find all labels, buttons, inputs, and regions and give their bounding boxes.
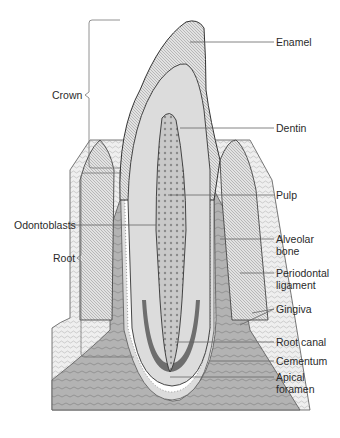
label-alveolar-line2: bone <box>276 245 314 257</box>
label-gingiva: Gingiva <box>276 303 312 315</box>
label-periodontal-ligament: Periodontal ligament <box>276 267 329 291</box>
label-alveolar-line1: Alveolar <box>276 233 314 245</box>
gingiva-left <box>80 140 114 320</box>
label-apical-line1: Apical <box>276 371 315 383</box>
label-alveolar-bone: Alveolar bone <box>276 233 314 257</box>
label-pulp: Pulp <box>276 189 297 201</box>
label-periodontal-line1: Periodontal <box>276 267 329 279</box>
label-cementum: Cementum <box>276 355 327 367</box>
label-crown: Crown <box>52 89 82 101</box>
label-root: Root <box>53 252 75 264</box>
label-apical-foramen: Apical foramen <box>276 371 315 395</box>
label-enamel: Enamel <box>276 36 312 48</box>
label-dentin: Dentin <box>276 122 306 134</box>
label-root-canal: Root canal <box>276 336 326 348</box>
label-apical-line2: foramen <box>276 383 315 395</box>
label-periodontal-line2: ligament <box>276 279 329 291</box>
label-odontoblasts: Odontoblasts <box>14 219 76 231</box>
